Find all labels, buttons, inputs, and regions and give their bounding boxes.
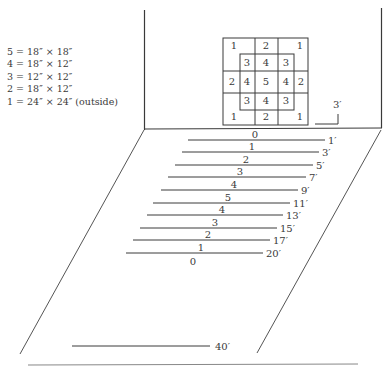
height-marker [315, 114, 338, 124]
target-cell-label: 3 [283, 95, 289, 106]
throw-line-score: 0 [252, 129, 258, 140]
legend-item-1: 1 = 24″ × 24″ (outside) [7, 96, 118, 108]
floor-left-edge [20, 130, 144, 354]
target-cell-label: 3 [244, 95, 250, 106]
throw-line: 13′ [182, 141, 331, 158]
throw-line-distance: 13′ [286, 210, 302, 221]
throw-line: 413′ [147, 204, 302, 221]
throw-line-score: 2 [243, 154, 249, 165]
throw-line-distance: 5′ [316, 160, 325, 171]
throw-line: 37′ [168, 166, 318, 183]
target-cell-label: 2 [298, 76, 304, 87]
throw-line-score: 5 [225, 192, 231, 203]
target-cell-label: 2 [229, 76, 235, 87]
target-cell-label: 2 [263, 40, 269, 51]
far-line-distance-label: 40′ [215, 341, 231, 352]
target-cell-label: 1 [231, 111, 237, 122]
throw-line: 25′ [175, 154, 325, 171]
legend-item-3: 3 = 12″ × 12″ [7, 71, 118, 83]
legend-item-4: 4 = 18″ × 12″ [7, 58, 118, 70]
throw-line: 511′ [153, 192, 309, 209]
throw-line-distance: 15′ [280, 223, 296, 234]
throw-line-score: 1 [198, 242, 204, 253]
target-cell-label: 1 [297, 111, 303, 122]
target-cell-label: 3 [244, 57, 250, 68]
throw-line: 120′ [126, 242, 282, 259]
wall-floor-line [144, 128, 382, 129]
target-cell-label: 4 [263, 95, 269, 106]
size-legend: 5 = 18″ × 18″ 4 = 18″ × 12″ 3 = 12″ × 12… [7, 46, 118, 108]
throw-line-score: 4 [231, 179, 237, 190]
throw-line-distance: 20′ [266, 248, 282, 259]
throw-line: 49′ [161, 179, 310, 196]
target-cell-label: 4 [283, 76, 289, 87]
throw-line: 315′ [140, 217, 296, 234]
throw-line-score: 1 [249, 141, 255, 152]
target-cell-label: 5 [263, 76, 269, 87]
throw-line-score: 4 [219, 204, 225, 215]
legend-item-5: 5 = 18″ × 18″ [7, 46, 118, 58]
target-cell-label: 3 [283, 57, 289, 68]
throw-line: 217′ [133, 229, 289, 246]
throw-line-distance: 1′ [328, 135, 337, 146]
throw-line-distance: 17′ [273, 235, 289, 246]
throw-lines: 01′13′25′37′49′511′413′315′217′120′ [126, 129, 337, 259]
target-cell-label: 2 [263, 111, 269, 122]
throw-line-score: 3 [212, 217, 218, 228]
throw-line-distance: 11′ [293, 198, 309, 209]
throw-line-score: 2 [205, 229, 211, 240]
target-cell-label: 4 [244, 76, 250, 87]
throw-line-distance: 9′ [301, 185, 310, 196]
target-cell-label: 1 [231, 40, 237, 51]
throw-line-score: 3 [237, 166, 243, 177]
throw-line-distance: 3′ [322, 147, 331, 158]
height-marker-label: 3′ [333, 99, 342, 110]
throw-line: 01′ [188, 129, 337, 146]
floor-bottom-border [28, 364, 358, 365]
legend-item-2: 2 = 18″ × 12″ [7, 83, 118, 95]
score-label-after-20ft: 0 [190, 256, 196, 267]
throw-line-distance: 7′ [309, 172, 318, 183]
target-cell-label: 4 [263, 57, 269, 68]
target-cell-label: 1 [297, 40, 303, 51]
